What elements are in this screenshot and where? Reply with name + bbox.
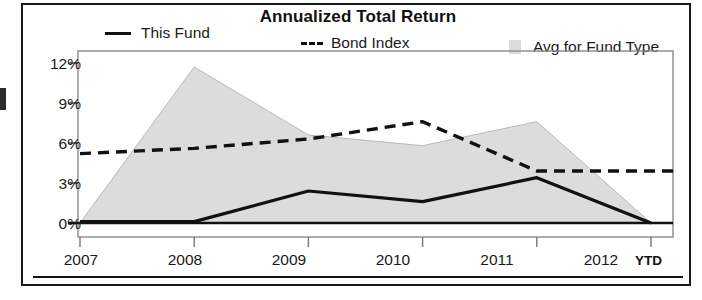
plot-svg [23,5,693,288]
x-tick-label-2011: 2011 [467,251,527,269]
y-tick-label-12: 12% [35,55,81,73]
x-tick-label-2009: 2009 [259,251,319,269]
chart-frame: Annualized Total Return This Fund Bond I… [21,3,691,286]
plot-area: 12% 9% 6% 3% 0% 2007 2008 2009 2010 2011… [23,5,693,288]
y-tick-label-3: 3% [35,175,81,193]
y-tick-label-6: 6% [35,135,81,153]
page-edge-artifact [0,88,6,110]
x-axis-ytd-label: YTD [635,253,662,268]
x-tick-label-2010: 2010 [363,251,423,269]
x-tick-label-2008: 2008 [155,251,215,269]
y-tick-label-0: 0% [35,215,81,233]
x-tick-label-2012: 2012 [571,251,631,269]
y-tick-label-9: 9% [35,95,81,113]
chart-screenshot: Annualized Total Return This Fund Bond I… [0,0,702,300]
series-area-avg-for-fund-type [80,67,651,223]
x-tick-label-2007: 2007 [51,251,111,269]
